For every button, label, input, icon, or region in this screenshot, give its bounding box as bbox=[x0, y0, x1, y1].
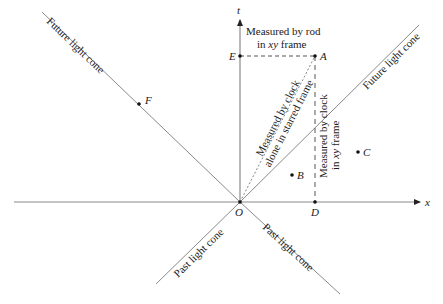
future-light-cone-left-label: Future light cone bbox=[45, 15, 108, 76]
svg-text:Future light cone: Future light cone bbox=[45, 15, 108, 76]
past-light-cone-right-label: Past light cone bbox=[261, 221, 317, 274]
origin-label: O bbox=[235, 206, 243, 218]
future-light-cone-right-label: Future light cone bbox=[360, 30, 422, 91]
svg-text:Past light cone: Past light cone bbox=[261, 221, 317, 274]
point-E-dot bbox=[238, 54, 242, 58]
past-light-cone-left-line bbox=[156, 202, 240, 284]
point-D-label: D bbox=[310, 206, 319, 218]
svg-text:Measured by clock: Measured by clock bbox=[317, 94, 329, 178]
svg-text:in xy frame: in xy frame bbox=[329, 120, 341, 170]
clock-xy-annotation: Measured by clock in xy frame bbox=[317, 94, 341, 178]
diagram-svg: x t E A D O B C F Measured by rod in xy … bbox=[0, 0, 443, 304]
point-E-label: E bbox=[228, 50, 236, 62]
point-C-label: C bbox=[363, 146, 371, 158]
point-F-label: F bbox=[144, 94, 152, 106]
past-light-cone-left-label: Past light cone bbox=[171, 226, 226, 280]
point-O-dot bbox=[238, 200, 242, 204]
rod-annotation-line1: Measured by rod bbox=[246, 25, 321, 37]
point-D-dot bbox=[313, 200, 317, 204]
spacetime-diagram: x t E A D O B C F Measured by rod in xy … bbox=[0, 0, 443, 304]
t-axis-label: t bbox=[237, 4, 241, 16]
clock-starred-annotation: Measured by clock alone in starred frame bbox=[250, 72, 315, 169]
point-C-dot bbox=[356, 150, 360, 154]
svg-text:Future light cone: Future light cone bbox=[360, 30, 422, 91]
point-A-label: A bbox=[319, 50, 327, 62]
point-B-label: B bbox=[297, 169, 304, 181]
point-B-dot bbox=[290, 173, 294, 177]
point-A-dot bbox=[313, 54, 317, 58]
svg-text:Past light cone: Past light cone bbox=[171, 226, 226, 280]
x-axis-label: x bbox=[424, 196, 430, 208]
rod-annotation-line2: in xy frame bbox=[257, 38, 307, 50]
point-F-dot bbox=[137, 102, 141, 106]
